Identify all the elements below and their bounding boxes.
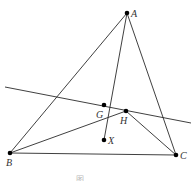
point-c (174, 153, 179, 158)
point-b (8, 151, 13, 156)
figure-caption: 图 (76, 175, 84, 181)
point-x (102, 138, 107, 143)
point-h (124, 109, 129, 114)
label-a: A (130, 8, 138, 19)
label-c: C (180, 150, 187, 161)
label-h: H (119, 115, 128, 126)
point-g (102, 103, 107, 108)
label-x: X (107, 135, 115, 146)
label-b: B (6, 157, 12, 168)
segment-bc (10, 153, 176, 155)
geometry-diagram: A B C G H X 图 (0, 0, 196, 181)
label-g: G (96, 109, 103, 120)
point-a (125, 11, 130, 16)
